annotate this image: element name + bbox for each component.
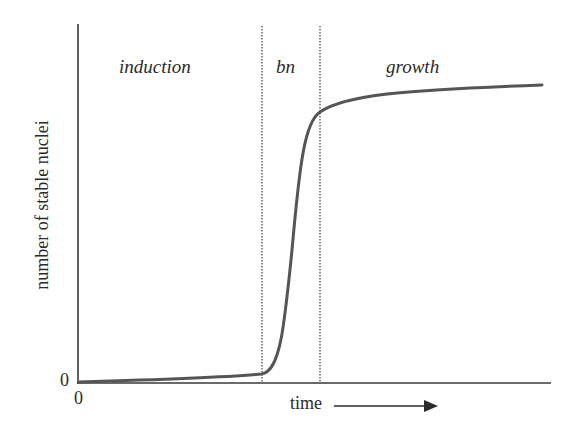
- arrow-right-icon: [424, 400, 438, 412]
- y-tick-zero: 0: [60, 370, 69, 391]
- phase-label-growth: growth: [386, 56, 439, 78]
- nucleation-chart: induction bn growth number of stable nuc…: [0, 0, 574, 435]
- phase-label-bn: bn: [276, 56, 295, 78]
- nuclei-curve: [79, 85, 542, 382]
- phase-label-induction: induction: [119, 56, 191, 78]
- x-tick-zero: 0: [74, 388, 83, 409]
- x-axis-label: time: [290, 393, 322, 414]
- y-axis-label: number of stable nuclei: [32, 120, 53, 289]
